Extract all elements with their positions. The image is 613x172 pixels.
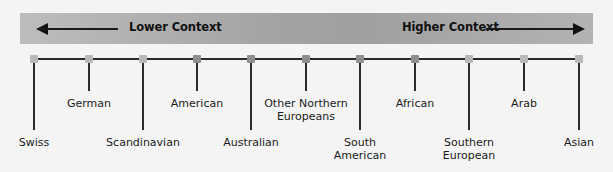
culture-connector-line — [88, 63, 90, 91]
culture-node-marker — [465, 55, 473, 63]
culture-label: Southern European — [409, 136, 529, 162]
culture-label: South American — [300, 136, 420, 162]
culture-node-marker — [30, 55, 38, 63]
arrow-right-shaft — [486, 28, 576, 30]
culture-node-marker — [575, 55, 583, 63]
culture-label: Asian — [519, 136, 613, 149]
culture-connector-line — [196, 63, 198, 91]
culture-connector-line — [578, 63, 580, 130]
culture-node-marker — [356, 55, 364, 63]
arrow-left-shaft — [38, 28, 118, 30]
culture-connector-line — [414, 63, 416, 91]
context-continuum-diagram: Lower Context Higher Context SwissGerman… — [0, 0, 613, 172]
culture-node-marker — [411, 55, 419, 63]
context-scale-bar: Lower Context Higher Context — [20, 13, 593, 44]
culture-label: Scandinavian — [83, 136, 203, 149]
culture-node-marker — [247, 55, 255, 63]
culture-node-marker — [302, 55, 310, 63]
culture-label: Other Northern Europeans — [246, 97, 366, 123]
culture-node-marker — [85, 55, 93, 63]
culture-node-marker — [520, 55, 528, 63]
culture-label: African — [355, 97, 475, 110]
culture-label: American — [137, 97, 257, 110]
lower-context-label: Lower Context — [129, 20, 222, 34]
culture-connector-line — [305, 63, 307, 91]
culture-node-marker — [139, 55, 147, 63]
culture-label: Australian — [191, 136, 311, 149]
culture-label: Swiss — [0, 136, 94, 149]
culture-connector-line — [523, 63, 525, 91]
higher-context-label: Higher Context — [402, 20, 499, 34]
culture-label: German — [29, 97, 149, 110]
culture-label: Arab — [464, 97, 584, 110]
culture-node-marker — [193, 55, 201, 63]
arrow-right-icon — [573, 23, 585, 35]
